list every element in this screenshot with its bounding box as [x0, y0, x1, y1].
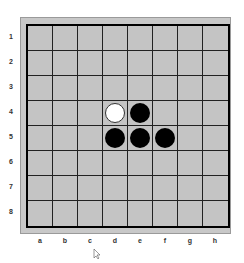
square-g1[interactable]: [178, 26, 203, 51]
square-f8[interactable]: [153, 201, 178, 226]
square-e1[interactable]: [128, 26, 153, 51]
square-f7[interactable]: [153, 176, 178, 201]
square-a8[interactable]: [28, 201, 53, 226]
black-disc-icon: [130, 103, 150, 123]
square-a3[interactable]: [28, 76, 53, 101]
square-f6[interactable]: [153, 151, 178, 176]
square-b1[interactable]: [53, 26, 78, 51]
othello-board[interactable]: [26, 24, 230, 228]
square-d2[interactable]: [103, 51, 128, 76]
row-label-3: 3: [8, 83, 14, 90]
square-e4[interactable]: [128, 101, 153, 126]
square-a4[interactable]: [28, 101, 53, 126]
square-d6[interactable]: [103, 151, 128, 176]
square-c6[interactable]: [78, 151, 103, 176]
row-label-8: 8: [8, 208, 14, 215]
square-h4[interactable]: [203, 101, 228, 126]
col-label-c: c: [85, 237, 95, 244]
white-disc-icon: [105, 103, 125, 123]
square-f2[interactable]: [153, 51, 178, 76]
col-label-g: g: [185, 237, 195, 244]
row-label-6: 6: [8, 158, 14, 165]
black-disc-icon: [130, 128, 150, 148]
square-e3[interactable]: [128, 76, 153, 101]
square-a2[interactable]: [28, 51, 53, 76]
square-f5[interactable]: [153, 126, 178, 151]
square-b7[interactable]: [53, 176, 78, 201]
square-b6[interactable]: [53, 151, 78, 176]
col-label-b: b: [60, 237, 70, 244]
square-d1[interactable]: [103, 26, 128, 51]
square-e2[interactable]: [128, 51, 153, 76]
square-g5[interactable]: [178, 126, 203, 151]
square-e7[interactable]: [128, 176, 153, 201]
square-h8[interactable]: [203, 201, 228, 226]
black-disc-icon: [105, 128, 125, 148]
square-g4[interactable]: [178, 101, 203, 126]
square-d7[interactable]: [103, 176, 128, 201]
square-h6[interactable]: [203, 151, 228, 176]
square-b3[interactable]: [53, 76, 78, 101]
row-label-2: 2: [8, 58, 14, 65]
square-g2[interactable]: [178, 51, 203, 76]
square-c7[interactable]: [78, 176, 103, 201]
square-b4[interactable]: [53, 101, 78, 126]
square-d8[interactable]: [103, 201, 128, 226]
square-a7[interactable]: [28, 176, 53, 201]
square-h5[interactable]: [203, 126, 228, 151]
square-c5[interactable]: [78, 126, 103, 151]
square-e6[interactable]: [128, 151, 153, 176]
col-label-f: f: [160, 237, 170, 244]
square-d4[interactable]: [103, 101, 128, 126]
square-a1[interactable]: [28, 26, 53, 51]
black-disc-icon: [155, 128, 175, 148]
square-a5[interactable]: [28, 126, 53, 151]
square-h1[interactable]: [203, 26, 228, 51]
square-e5[interactable]: [128, 126, 153, 151]
square-c1[interactable]: [78, 26, 103, 51]
square-h7[interactable]: [203, 176, 228, 201]
square-g6[interactable]: [178, 151, 203, 176]
row-label-5: 5: [8, 133, 14, 140]
square-c4[interactable]: [78, 101, 103, 126]
square-g3[interactable]: [178, 76, 203, 101]
col-label-d: d: [110, 237, 120, 244]
square-e8[interactable]: [128, 201, 153, 226]
square-c8[interactable]: [78, 201, 103, 226]
square-g7[interactable]: [178, 176, 203, 201]
square-f4[interactable]: [153, 101, 178, 126]
square-c3[interactable]: [78, 76, 103, 101]
square-b5[interactable]: [53, 126, 78, 151]
square-f3[interactable]: [153, 76, 178, 101]
square-d5[interactable]: [103, 126, 128, 151]
square-g8[interactable]: [178, 201, 203, 226]
col-label-e: e: [135, 237, 145, 244]
col-label-a: a: [35, 237, 45, 244]
square-a6[interactable]: [28, 151, 53, 176]
square-h2[interactable]: [203, 51, 228, 76]
row-label-1: 1: [8, 33, 14, 40]
mouse-cursor-icon: [93, 248, 101, 260]
square-f1[interactable]: [153, 26, 178, 51]
row-label-7: 7: [8, 183, 14, 190]
square-d3[interactable]: [103, 76, 128, 101]
square-h3[interactable]: [203, 76, 228, 101]
square-b2[interactable]: [53, 51, 78, 76]
square-b8[interactable]: [53, 201, 78, 226]
col-label-h: h: [210, 237, 220, 244]
row-label-4: 4: [8, 108, 14, 115]
square-c2[interactable]: [78, 51, 103, 76]
